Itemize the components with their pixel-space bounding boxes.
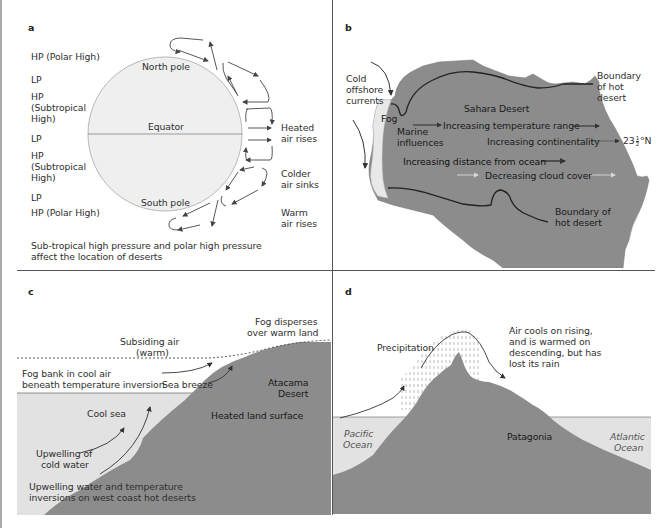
label-upwelling-2: cold water [41,459,89,470]
label-atacama-1: Atacama [268,377,308,388]
label-sea-breeze: Sea breeze [162,379,213,390]
latitude-fraction: 12 [636,136,639,148]
label-fog-bank-2: beneath temperature inversion [22,379,164,390]
label-equator: Equator [148,121,184,132]
label-marine-2: influences [397,137,444,148]
caption-a-line1: Sub-tropical high pressure and polar hig… [31,240,262,251]
label-patagonia: Patagonia [507,431,552,442]
label-pacific-2: Ocean [343,439,372,450]
label-lp-3: LP [31,192,42,203]
label-distance-ocean: Increasing distance from ocean [403,156,546,167]
label-temp-range: Increasing temperature range [443,120,580,131]
label-latitude: 2312°N [623,135,651,148]
label-cool-sea: Cool sea [87,408,126,419]
label-atlantic-2: Ocean [614,442,643,453]
africa-map-graphic [333,0,666,268]
latitude-whole: 23 [623,135,635,146]
label-subtropical-north: (Subtropical [31,102,86,113]
panel-d-patagonia-rainshadow: d Precipitation Air cools on rising, and… [333,270,666,528]
label-marine-1: Marine [397,126,428,137]
label-subsiding-air-2: (warm) [136,347,169,358]
label-subtropical-south: (Subtropical [31,161,86,172]
caption-a-line2: affect the location of deserts [31,251,162,262]
label-hp-polar-south: HP (Polar High) [31,207,100,218]
label-air-cools-2: and is warmed on [509,336,590,347]
label-cold-offshore-2: offshore [346,84,383,95]
label-north-pole: North pole [142,61,190,72]
label-boundary-bottom-1: Boundary of [555,206,611,217]
label-sahara-desert: Sahara Desert [464,103,529,114]
label-fog-disperses-2: over warm land [247,327,318,338]
rainshadow-graphic [333,270,666,528]
label-warm-air-rises-1: Warm [281,207,308,218]
label-lp-2: LP [31,133,42,144]
label-lp-1: LP [31,74,42,85]
latitude-suffix: °N [640,135,651,146]
panel-a-pressure-belts: a [0,0,331,268]
label-fog-disperses-1: Fog disperses [255,316,317,327]
label-air-cools-1: Air cools on rising, [509,325,593,336]
left-edge-border [0,0,2,528]
label-heated-air-rises-2: air rises [281,133,317,144]
latitude-denominator: 2 [636,141,639,148]
caption-c-line2: inversions on west coast hot deserts [29,492,196,503]
label-fog-bank-1: Fog bank in cool air [22,368,111,379]
label-boundary-top-2: of hot [597,81,624,92]
label-south-pole: South pole [141,197,190,208]
label-heated-land: Heated land surface [211,410,303,421]
label-high-north: High) [31,113,56,124]
panel-b-sahara-map: b Cold offshore currents Boundary of [333,0,666,268]
label-air-cools-3: descending, but has [509,347,601,358]
label-warm-air-rises-2: air rises [281,218,317,229]
label-cloud-cover: Decreasing cloud cover [485,170,592,181]
horizontal-divider [17,270,655,271]
caption-c-line1: Upwelling water and temperature [29,481,183,492]
panel-c-atacama-fog: c Fog disperses over warm land Subsiding… [0,270,331,528]
label-cold-offshore-3: currents [346,95,384,106]
label-hp-subtropical-north: HP [31,91,43,102]
label-continentality: Increasing continentality [487,136,600,147]
label-hp-polar-north: HP (Polar High) [31,51,100,62]
label-hp-subtropical-south: HP [31,150,43,161]
label-heated-air-rises-1: Heated [281,122,314,133]
label-boundary-top-3: desert [597,92,626,103]
label-high-south: High) [31,172,56,183]
label-colder-air-sinks-1: Colder [281,168,311,179]
vertical-divider [332,0,333,515]
label-boundary-bottom-2: hot desert [555,217,602,228]
label-upwelling-1: Upwelling of [36,448,92,459]
label-precipitation: Precipitation [377,342,434,353]
label-subsiding-air-1: Subsiding air [120,336,179,347]
label-air-cools-4: lost its rain [509,358,559,369]
label-fog: Fog [381,113,397,124]
label-atacama-2: Desert [278,388,308,399]
label-colder-air-sinks-2: air sinks [281,179,319,190]
label-cold-offshore-1: Cold [346,73,366,84]
label-boundary-top-1: Boundary [597,70,641,81]
label-atlantic-1: Atlantic [610,431,645,442]
label-pacific-1: Pacific [344,428,373,439]
